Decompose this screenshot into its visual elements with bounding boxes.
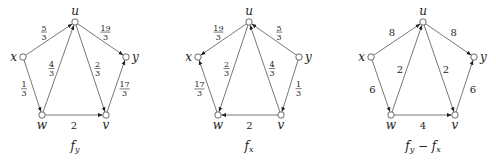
node-label-y: y xyxy=(479,50,487,64)
svg-text:3: 3 xyxy=(49,69,54,78)
svg-text:4: 4 xyxy=(269,60,274,69)
node-u xyxy=(246,19,252,25)
node-label-x: x xyxy=(358,50,365,64)
node-label-w: w xyxy=(37,118,48,132)
edge-weight-label: 53 xyxy=(276,24,282,42)
node-x xyxy=(368,54,374,60)
edge-x-to-w xyxy=(24,60,41,111)
node-x xyxy=(20,54,26,60)
edge-weight-label: 8 xyxy=(389,27,395,38)
svg-text:2: 2 xyxy=(246,120,252,131)
edge-weight-label: 23 xyxy=(224,60,230,78)
svg-text:3: 3 xyxy=(224,69,229,78)
edge-u-to-v xyxy=(76,25,105,111)
svg-text:2: 2 xyxy=(71,120,77,131)
node-x xyxy=(195,54,201,60)
svg-text:2: 2 xyxy=(95,60,100,69)
edge-weight-label: 13 xyxy=(296,80,302,98)
svg-text:17: 17 xyxy=(194,80,204,89)
edge-weight-label: 4 xyxy=(420,120,426,131)
edge-weight-label: 173 xyxy=(119,80,129,98)
edge-weight-label: 13 xyxy=(21,80,27,98)
node-y xyxy=(296,54,302,60)
flow-diagram-canvas: 531934323131732uxywvfy 193532343173132ux… xyxy=(0,0,496,162)
edge-weight-label: 43 xyxy=(269,60,275,78)
edge-weight-label: 6 xyxy=(470,84,476,95)
svg-text:19: 19 xyxy=(213,24,223,33)
node-label-y: y xyxy=(131,50,139,64)
graph-f-x: 193532343173132uxywvfx xyxy=(185,4,312,154)
svg-text:3: 3 xyxy=(21,89,26,98)
edge-weight-label: 2 xyxy=(397,64,403,75)
node-u xyxy=(420,19,426,25)
edge-v-to-u xyxy=(250,25,280,111)
svg-text:3: 3 xyxy=(41,33,46,42)
svg-text:5: 5 xyxy=(41,24,46,33)
svg-text:3: 3 xyxy=(122,89,127,98)
graph-caption: fx xyxy=(244,139,254,154)
svg-text:3: 3 xyxy=(216,33,221,42)
edge-weight-label: 23 xyxy=(95,60,101,78)
svg-text:4: 4 xyxy=(49,60,54,69)
graph-caption: fy − fx xyxy=(404,139,441,154)
edge-weight-label: 193 xyxy=(213,24,223,42)
node-label-x: x xyxy=(10,50,17,64)
svg-text:4: 4 xyxy=(420,120,426,131)
node-label-u: u xyxy=(245,4,253,18)
edge-weight-label: 193 xyxy=(100,24,110,42)
svg-text:3: 3 xyxy=(103,33,108,42)
svg-text:3: 3 xyxy=(277,33,282,42)
svg-text:1: 1 xyxy=(296,80,301,89)
node-label-v: v xyxy=(278,118,285,132)
svg-text:8: 8 xyxy=(389,27,395,38)
edge-weight-label: 8 xyxy=(450,27,456,38)
svg-text:17: 17 xyxy=(119,80,129,89)
svg-text:2: 2 xyxy=(397,64,403,75)
node-label-y: y xyxy=(304,50,312,64)
edge-weight-label: 2 xyxy=(71,120,77,131)
edge-weight-label: 173 xyxy=(194,80,204,98)
svg-text:6: 6 xyxy=(369,84,375,95)
node-u xyxy=(72,19,78,25)
svg-text:1: 1 xyxy=(21,80,26,89)
node-label-w: w xyxy=(213,118,224,132)
edge-weight-label: 2 xyxy=(246,120,252,131)
node-label-v: v xyxy=(452,118,459,132)
edge-weight-label: 2 xyxy=(443,64,449,75)
edge-weight-label: 6 xyxy=(369,84,375,95)
node-label-x: x xyxy=(185,50,192,64)
node-y xyxy=(471,54,477,60)
node-label-u: u xyxy=(71,4,79,18)
node-label-v: v xyxy=(103,118,110,132)
svg-text:19: 19 xyxy=(100,24,110,33)
graph-f-y: 531934323131732uxywvfy xyxy=(10,4,139,154)
node-label-w: w xyxy=(386,118,397,132)
edge-u-to-v xyxy=(424,25,454,111)
edge-weight-label: 43 xyxy=(49,60,55,78)
svg-text:8: 8 xyxy=(450,27,456,38)
svg-text:3: 3 xyxy=(269,69,274,78)
edge-weight-label: 53 xyxy=(41,24,47,42)
graph-f-y-minus-f-x: 8822664uxywvfy − fx xyxy=(358,4,487,154)
graph-caption: fy xyxy=(70,139,80,154)
svg-text:5: 5 xyxy=(277,24,282,33)
svg-text:3: 3 xyxy=(197,89,202,98)
node-y xyxy=(123,54,129,60)
svg-text:6: 6 xyxy=(470,84,476,95)
svg-text:2: 2 xyxy=(224,60,229,69)
node-label-u: u xyxy=(419,4,427,18)
svg-text:3: 3 xyxy=(95,69,100,78)
edge-w-to-u xyxy=(43,25,74,111)
svg-text:3: 3 xyxy=(296,89,301,98)
svg-text:2: 2 xyxy=(443,64,449,75)
